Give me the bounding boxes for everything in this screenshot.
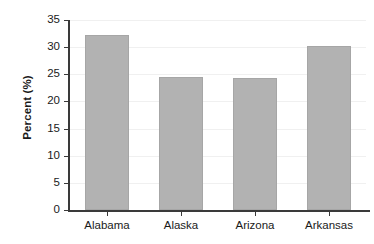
x-axis-tick-marks: [70, 210, 366, 216]
x-axis-tick-mark: [107, 210, 108, 216]
plot-area: [70, 20, 366, 210]
x-axis-tick-labels: AlabamaAlaskaArizonaArkansas: [70, 219, 366, 239]
y-axis-tick-label: 15: [34, 123, 60, 135]
x-axis-tick-mark: [329, 210, 330, 216]
x-axis-tick-label: Alabama: [70, 219, 144, 233]
y-axis-tick-labels: 05101520253035: [34, 0, 60, 244]
y-axis-tick-label: 25: [34, 68, 60, 80]
bar-chart: Percent (%) 05101520253035 AlabamaAlaska…: [0, 0, 374, 244]
x-axis-tick-label: Alaska: [144, 219, 218, 233]
y-axis-tick-label: 20: [34, 95, 60, 107]
x-axis-tick-label: Arizona: [218, 219, 292, 233]
y-axis-tick-label: 10: [34, 150, 60, 162]
gridline: [70, 20, 366, 21]
x-axis-tick-mark: [181, 210, 182, 216]
y-axis-tick-label: 0: [34, 204, 60, 216]
bar: [307, 46, 351, 210]
x-axis-tick-mark: [255, 210, 256, 216]
y-axis-tick-label: 35: [34, 14, 60, 26]
y-axis-tick-label: 30: [34, 41, 60, 53]
y-axis-tick-label: 5: [34, 177, 60, 189]
bar: [85, 35, 129, 210]
x-axis-tick-label: Arkansas: [292, 219, 366, 233]
bar: [233, 78, 277, 210]
bar: [159, 77, 203, 210]
